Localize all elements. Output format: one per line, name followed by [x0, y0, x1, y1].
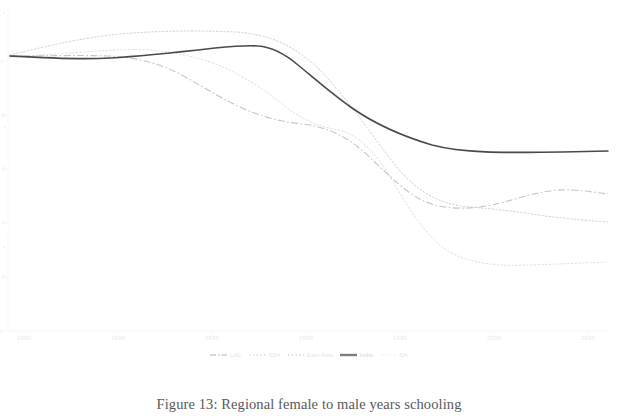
legend-swatch-dotted-icon: [288, 352, 305, 358]
y-tick-label-5: 1: [0, 58, 3, 64]
y-tick-label-3: .6: [0, 166, 5, 172]
legend-swatch-dotted-icon: [380, 352, 397, 358]
series-line-lac: [10, 56, 608, 209]
figure-page: 1950 1960 1970 1980 1990 2000 2010 0 .2 …: [0, 0, 618, 418]
x-axis-ticks: [24, 331, 588, 334]
x-tick-label-6: 2010: [581, 335, 595, 341]
legend-item-lac[interactable]: LAC: [210, 352, 241, 358]
x-tick-label-4: 1990: [393, 335, 407, 341]
legend-label-east-asia: East Asia: [307, 352, 333, 358]
scan-speck: [3, 246, 5, 248]
series-line-ssa: [10, 50, 608, 266]
y-axis-ticks: [5, 61, 8, 331]
legend-label-sa: SA: [400, 352, 408, 358]
line-chart-svg: [0, 0, 618, 345]
scan-speck: [4, 126, 6, 128]
y-tick-label-2: .4: [0, 220, 5, 226]
figure-caption: Figure 13: Regional female to male years…: [0, 396, 618, 413]
legend-swatch-solid-icon: [340, 352, 357, 358]
scan-speck: [3, 12, 5, 14]
y-tick-label-4: .8: [0, 112, 5, 118]
x-tick-label-1: 1960: [111, 335, 125, 341]
chart-plot-area: 1950 1960 1970 1980 1990 2000 2010 0 .2 …: [0, 0, 618, 345]
legend-swatch-dash-dot-icon: [210, 352, 227, 358]
series-line-india: [10, 46, 608, 153]
legend-item-ssa[interactable]: SSA: [249, 352, 281, 358]
legend-item-india[interactable]: India: [340, 352, 373, 358]
legend-item-sa[interactable]: SA: [380, 352, 408, 358]
legend-label-lac: LAC: [230, 352, 242, 358]
series-line-east-asia: [10, 31, 608, 222]
legend-label-india: India: [359, 352, 373, 358]
chart-legend: LAC SSA East Asia India SA: [0, 348, 618, 361]
x-tick-label-0: 1950: [17, 335, 31, 341]
legend-item-east-asia[interactable]: East Asia: [288, 352, 333, 358]
x-tick-label-3: 1980: [299, 335, 313, 341]
y-tick-label-1: .2: [0, 274, 5, 280]
x-tick-label-5: 2000: [487, 335, 501, 341]
legend-label-ssa: SSA: [268, 352, 280, 358]
legend-swatch-dotted-icon: [249, 352, 266, 358]
y-tick-label-0: 0: [0, 328, 3, 334]
x-tick-label-2: 1970: [205, 335, 219, 341]
